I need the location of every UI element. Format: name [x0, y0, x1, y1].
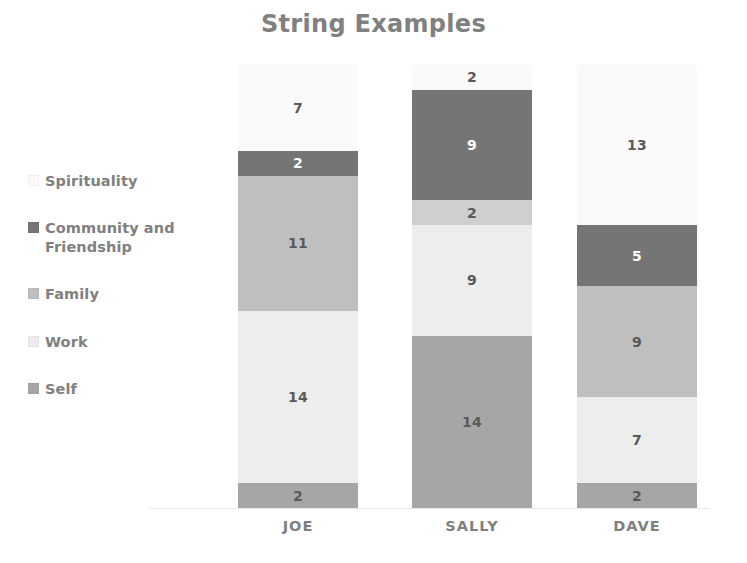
bar-stack[interactable]: 7211142 [238, 65, 358, 508]
x-axis-category-label: DAVE [577, 518, 697, 534]
bar-segment[interactable]: 9 [577, 286, 697, 397]
bar-segment-value: 7 [632, 433, 642, 447]
bar-segment[interactable]: 2 [412, 65, 532, 90]
bar-segment-value: 11 [288, 236, 308, 250]
bar-segment[interactable]: 13 [577, 65, 697, 225]
x-axis-category-label: JOE [238, 518, 358, 534]
bar-segment-value: 2 [293, 156, 303, 170]
bar-segment[interactable]: 2 [238, 483, 358, 508]
bar-segment-value: 7 [293, 101, 303, 115]
bar-segment[interactable]: 2 [577, 483, 697, 508]
bar-segment[interactable]: 2 [412, 200, 532, 225]
bar-segment-value: 9 [632, 335, 642, 349]
bar-segment-value: 14 [288, 390, 308, 404]
bar-segment-value: 2 [632, 489, 642, 503]
bar-segment[interactable]: 14 [412, 336, 532, 508]
bar-segment-value: 14 [462, 415, 482, 429]
bar-segment[interactable]: 5 [577, 225, 697, 287]
bar-stack[interactable]: 135972 [577, 65, 697, 508]
bar-segment-value: 9 [467, 138, 477, 152]
bar-segment-value: 9 [467, 273, 477, 287]
bar-segment-value: 2 [467, 70, 477, 84]
bar-segment[interactable]: 14 [238, 311, 358, 483]
bar-segment[interactable]: 2 [238, 151, 358, 176]
bar-segment[interactable]: 9 [412, 225, 532, 336]
bar-segment-value: 5 [632, 249, 642, 263]
bar-segment-value: 13 [627, 138, 647, 152]
bar-group: 7211142JOE [238, 0, 358, 563]
bar-segment-value: 2 [467, 206, 477, 220]
bar-group: 135972DAVE [577, 0, 697, 563]
chart-plot-area: 7211142JOE292914SALLY135972DAVE [0, 0, 747, 563]
bar-segment-value: 2 [293, 489, 303, 503]
bar-segment[interactable]: 9 [412, 90, 532, 201]
bar-group: 292914SALLY [412, 0, 532, 563]
bar-segment[interactable]: 7 [577, 397, 697, 483]
bar-segment[interactable]: 11 [238, 176, 358, 311]
bar-stack[interactable]: 292914 [412, 65, 532, 508]
bar-segment[interactable]: 7 [238, 65, 358, 151]
x-axis-category-label: SALLY [412, 518, 532, 534]
